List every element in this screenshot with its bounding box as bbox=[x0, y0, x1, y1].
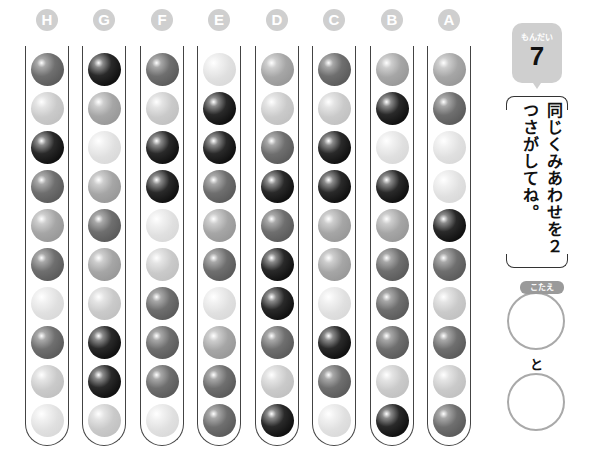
ball-medium-gray bbox=[88, 92, 121, 125]
ball-very-light-gray bbox=[376, 131, 409, 164]
ball-dark-gray bbox=[31, 248, 64, 281]
ball-black bbox=[376, 170, 409, 203]
ball-dark-gray bbox=[146, 365, 179, 398]
ball-black bbox=[203, 92, 236, 125]
answer-slot-2[interactable] bbox=[507, 373, 565, 431]
tube-board: HGFEDCBA bbox=[22, 8, 492, 448]
ball-dark-gray bbox=[146, 287, 179, 320]
tube-label: F bbox=[151, 9, 173, 31]
ball-dark-gray bbox=[31, 326, 64, 359]
ball-very-light-gray bbox=[318, 404, 351, 437]
answer-slot-1[interactable] bbox=[507, 292, 565, 350]
ball-dark-gray bbox=[203, 404, 236, 437]
tube-label: E bbox=[208, 9, 230, 31]
problem-number: 7 bbox=[512, 43, 562, 69]
ball-dark-gray bbox=[146, 53, 179, 86]
tube-outline bbox=[140, 46, 184, 446]
ball-medium-gray bbox=[433, 53, 466, 86]
tube-label: G bbox=[93, 9, 115, 31]
ball-medium-gray bbox=[376, 209, 409, 242]
ball-medium-gray bbox=[203, 326, 236, 359]
tube-outline bbox=[255, 46, 299, 446]
ball-black bbox=[433, 209, 466, 242]
tube-outline bbox=[370, 46, 414, 446]
ball-very-light-gray bbox=[31, 404, 64, 437]
ball-medium-gray bbox=[31, 209, 64, 242]
tube-outline bbox=[25, 46, 69, 446]
problem-badge: もんだい 7 bbox=[512, 23, 562, 83]
ball-dark-gray bbox=[261, 131, 294, 164]
ball-dark-gray bbox=[261, 326, 294, 359]
ball-black bbox=[261, 287, 294, 320]
question-panel: もんだい 7 同じくみあわせを２つさがしてね。 こたえ と bbox=[492, 0, 595, 452]
ball-very-light-gray bbox=[203, 53, 236, 86]
ball-very-light-gray bbox=[433, 131, 466, 164]
ball-light-gray bbox=[261, 365, 294, 398]
ball-light-gray bbox=[31, 92, 64, 125]
tube-outline bbox=[312, 46, 356, 446]
ball-very-light-gray bbox=[31, 287, 64, 320]
ball-medium-gray bbox=[88, 170, 121, 203]
tube-c[interactable]: C bbox=[309, 8, 359, 448]
ball-light-gray bbox=[146, 248, 179, 281]
ball-black bbox=[261, 170, 294, 203]
ball-medium-gray bbox=[88, 248, 121, 281]
ball-medium-gray bbox=[261, 53, 294, 86]
ball-light-gray bbox=[88, 287, 121, 320]
ball-black bbox=[376, 404, 409, 437]
ball-dark-gray bbox=[433, 326, 466, 359]
ball-dark-gray bbox=[433, 92, 466, 125]
ball-dark-gray bbox=[31, 170, 64, 203]
ball-dark-gray bbox=[318, 365, 351, 398]
answer-label: こたえ bbox=[520, 281, 564, 294]
ball-black bbox=[261, 404, 294, 437]
ball-dark-gray bbox=[146, 326, 179, 359]
ball-black bbox=[318, 131, 351, 164]
tube-label: C bbox=[323, 9, 345, 31]
ball-black bbox=[88, 365, 121, 398]
ball-very-light-gray bbox=[146, 209, 179, 242]
ball-black bbox=[376, 92, 409, 125]
bracket-bottom bbox=[506, 254, 568, 268]
ball-dark-gray bbox=[318, 53, 351, 86]
ball-black bbox=[318, 170, 351, 203]
tube-f[interactable]: F bbox=[137, 8, 187, 448]
ball-light-gray bbox=[88, 404, 121, 437]
ball-black bbox=[146, 170, 179, 203]
tube-b[interactable]: B bbox=[367, 8, 417, 448]
ball-dark-gray bbox=[376, 248, 409, 281]
ball-black bbox=[31, 131, 64, 164]
ball-light-gray bbox=[433, 287, 466, 320]
ball-dark-gray bbox=[203, 365, 236, 398]
ball-medium-gray bbox=[318, 248, 351, 281]
ball-medium-gray bbox=[318, 209, 351, 242]
ball-light-gray bbox=[31, 365, 64, 398]
ball-black bbox=[203, 131, 236, 164]
ball-dark-gray bbox=[376, 326, 409, 359]
tube-e[interactable]: E bbox=[194, 8, 244, 448]
connector-text: と bbox=[530, 354, 543, 373]
ball-dark-gray bbox=[261, 209, 294, 242]
ball-dark-gray bbox=[203, 170, 236, 203]
instruction-text: 同じくみあわせを２つさがしてね。 bbox=[511, 102, 565, 262]
tube-label: A bbox=[438, 9, 460, 31]
ball-black bbox=[146, 131, 179, 164]
ball-black bbox=[261, 248, 294, 281]
ball-medium-gray bbox=[376, 53, 409, 86]
tube-g[interactable]: G bbox=[79, 8, 129, 448]
tube-d[interactable]: D bbox=[252, 8, 302, 448]
tube-label: D bbox=[266, 9, 288, 31]
ball-dark-gray bbox=[433, 404, 466, 437]
tube-h[interactable]: H bbox=[22, 8, 72, 448]
ball-dark-gray bbox=[88, 209, 121, 242]
ball-light-gray bbox=[261, 92, 294, 125]
ball-light-gray bbox=[318, 92, 351, 125]
ball-medium-gray bbox=[203, 209, 236, 242]
ball-very-light-gray bbox=[203, 287, 236, 320]
tube-label: H bbox=[36, 9, 58, 31]
ball-very-light-gray bbox=[146, 404, 179, 437]
ball-dark-gray bbox=[376, 287, 409, 320]
ball-black bbox=[88, 53, 121, 86]
tube-label: B bbox=[381, 9, 403, 31]
tube-a[interactable]: A bbox=[424, 8, 474, 448]
